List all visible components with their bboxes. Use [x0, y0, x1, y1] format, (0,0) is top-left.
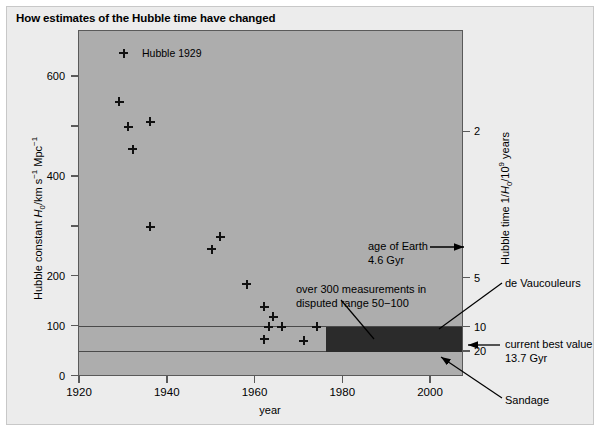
x-axis-tick	[342, 376, 344, 383]
right-axis-tick-label: 20	[474, 345, 486, 357]
data-point-marker	[242, 280, 251, 289]
left-axis-tick	[71, 75, 78, 77]
annotation-current-best-value: current best value 13.7 Gyr	[505, 338, 592, 365]
data-point-marker	[124, 122, 133, 131]
left-axis-tick-label: 100	[24, 320, 65, 332]
x-axis-tick-label: 1960	[242, 386, 268, 398]
x-axis-tick-label: 1940	[154, 386, 180, 398]
data-point-marker	[269, 312, 278, 321]
data-point-marker	[207, 245, 216, 254]
annotation-disputed-range-line1: over 300 measurements in	[296, 283, 426, 297]
disputed-range-band	[326, 327, 463, 352]
annotation-current-best-value-line2: 13.7 Gyr	[505, 352, 592, 366]
data-point-marker	[260, 335, 269, 344]
x-axis-title: year	[259, 404, 280, 416]
left-axis-tick	[71, 325, 78, 327]
right-axis-tick-label: 10	[474, 321, 486, 333]
left-axis-tick-label: 600	[24, 70, 65, 82]
left-axis-tick	[71, 375, 78, 377]
annotation-disputed-range-line2: disputed range 50−100	[296, 297, 426, 311]
right-axis-tick-label: 5	[474, 272, 480, 284]
data-point-marker	[146, 117, 155, 126]
plus-marker-icon	[119, 49, 128, 58]
legend-label: Hubble 1929	[142, 47, 202, 59]
left-axis-minor-tick	[71, 125, 78, 127]
left-axis-minor-tick	[71, 225, 78, 227]
annotation-age-of-earth-line1: age of Earth	[368, 240, 428, 254]
right-axis-tick	[463, 131, 470, 133]
right-axis-tick	[463, 326, 470, 328]
right-axis-tick-label: 2	[474, 125, 480, 137]
figure-title: How estimates of the Hubble time have ch…	[16, 12, 275, 24]
annotation-de-vaucouleurs: de Vaucouleurs	[505, 277, 581, 291]
annotation-sandage: Sandage	[505, 394, 549, 408]
x-axis-tick	[166, 376, 168, 383]
x-axis-tick	[254, 376, 256, 383]
left-axis-title: Hubble constant H0/km s−1 Mpc−1	[30, 137, 47, 300]
right-axis-title: Hubble time 1/H0/109 years	[497, 132, 514, 265]
left-axis-tick	[71, 175, 78, 177]
x-axis-tick-label: 2000	[417, 386, 443, 398]
x-axis-tick-label: 1920	[66, 386, 92, 398]
x-axis-tick-label: 1980	[329, 386, 355, 398]
data-point-marker	[146, 222, 155, 231]
annotation-age-of-earth-line2: 4.6 Gyr	[368, 254, 428, 268]
annotation-current-best-value-line1: current best value	[505, 338, 592, 352]
data-point-marker	[299, 336, 308, 345]
x-axis-tick	[429, 376, 431, 383]
annotation-disputed-range: over 300 measurements in disputed range …	[296, 283, 426, 310]
right-axis-tick	[463, 277, 470, 279]
data-point-marker	[115, 97, 124, 106]
plot-area: Hubble 1929	[78, 30, 463, 376]
data-point-marker	[216, 232, 225, 241]
data-point-marker	[128, 145, 137, 154]
left-axis-tick	[71, 275, 78, 277]
right-axis-tick	[463, 350, 470, 352]
data-point-marker	[260, 302, 269, 311]
legend: Hubble 1929	[119, 47, 202, 59]
left-axis-tick-label: 0	[24, 370, 65, 382]
annotation-age-of-earth: age of Earth 4.6 Gyr	[368, 240, 428, 267]
hubble-time-figure: How estimates of the Hubble time have ch…	[0, 0, 600, 431]
x-axis-tick	[78, 376, 80, 383]
